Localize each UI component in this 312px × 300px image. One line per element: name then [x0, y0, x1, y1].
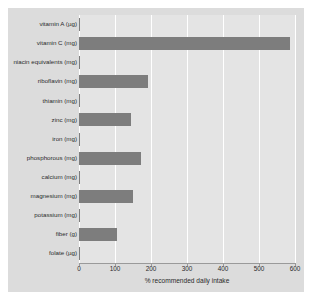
gridline [223, 15, 224, 263]
category-label: calcium (mg) [8, 174, 77, 180]
bar [79, 190, 133, 203]
x-axis: 0100200300400500600 [79, 263, 295, 273]
category-label: phosphorous (mg) [8, 155, 77, 161]
x-axis-tick-label: 0 [77, 266, 81, 272]
bar [79, 209, 80, 222]
category-label: potassium (mg) [8, 212, 77, 218]
bar [79, 56, 80, 69]
category-label: vitamin C (mg) [8, 40, 77, 46]
x-axis-tick-label: 300 [182, 266, 193, 272]
bar [79, 37, 290, 50]
gridline [151, 15, 152, 263]
category-label: thiamin (mg) [8, 98, 77, 104]
x-axis-tick-label: 200 [146, 266, 157, 272]
x-axis-tick-label: 500 [254, 266, 265, 272]
bar [79, 228, 117, 241]
category-label: magnesium (mg) [8, 193, 77, 199]
category-axis-labels: vitamin A (µg)vitamin C (mg)niacin equiv… [8, 15, 77, 263]
bar [79, 247, 80, 260]
category-label: riboflavin (mg) [8, 78, 77, 84]
category-label: niacin equivalents (mg) [8, 59, 77, 65]
x-axis-tick-label: 600 [290, 266, 301, 272]
category-label: zinc (mg) [8, 117, 77, 123]
bar [79, 75, 148, 88]
gridline [259, 15, 260, 263]
x-axis-tick-label: 400 [218, 266, 229, 272]
bar [79, 133, 80, 146]
bar [79, 171, 80, 184]
category-label: fiber (g) [8, 231, 77, 237]
plot-area [79, 15, 295, 263]
x-axis-title: % recommended daily intake [79, 278, 295, 285]
bar [79, 113, 131, 126]
category-label: folate (µg) [8, 250, 77, 256]
bar [79, 94, 80, 107]
category-label: iron (mg) [8, 136, 77, 142]
bar [79, 152, 141, 165]
gridline [187, 15, 188, 263]
chart-panel: vitamin A (µg)vitamin C (mg)niacin equiv… [8, 8, 304, 292]
category-label: vitamin A (µg) [8, 21, 77, 27]
gridline [295, 15, 296, 263]
gridline [115, 15, 116, 263]
bar-chart-figure: vitamin A (µg)vitamin C (mg)niacin equiv… [0, 0, 312, 300]
bar [79, 18, 80, 31]
x-axis-tick-label: 100 [110, 266, 121, 272]
